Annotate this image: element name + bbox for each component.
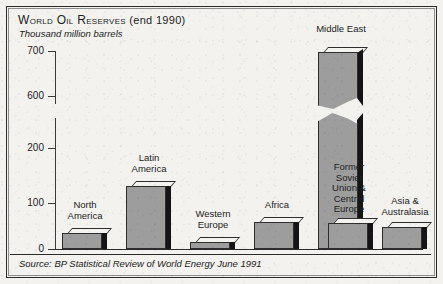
figure-panel: World Oil Reserves (end 1990) Thousand m… (0, 0, 443, 284)
figure-content: World Oil Reserves (end 1990) Thousand m… (10, 10, 431, 272)
bar-label-former-soviet-union: Former Soviet Union & Central Europe (318, 162, 380, 215)
source-divider (10, 254, 431, 255)
bar-middle-east-upper (318, 47, 363, 109)
bar-asia-australasia (382, 222, 427, 249)
bar-label-north-america: North America (50, 200, 120, 221)
bar-label-latin-america: Latin America (114, 153, 184, 174)
bar-north-america (62, 228, 107, 249)
y-axis-label-600: 600 (10, 90, 44, 101)
bar-latin-america (126, 181, 171, 249)
bar-front-face (318, 52, 358, 109)
y-axis-label-200: 200 (10, 142, 44, 153)
bar-western-europe (190, 237, 235, 249)
y-axis-label-700: 700 (10, 45, 44, 56)
bar-label-middle-east: Middle East (301, 24, 381, 35)
bar-label-asia-australasia: Asia & Australasia (372, 196, 438, 217)
y-axis-spine-lower (55, 118, 56, 250)
plot-area: 700 600 200 100 0 North America (10, 10, 431, 272)
bar-former-soviet-union (328, 218, 373, 249)
y-axis-label-100: 100 (10, 197, 44, 208)
bar-front-face (62, 233, 102, 249)
y-tick-200 (48, 148, 55, 149)
bar-front-face (382, 227, 422, 249)
y-tick-0 (48, 249, 55, 250)
x-axis-baseline (55, 249, 423, 250)
y-tick-700 (48, 51, 55, 52)
bar-front-face (254, 222, 294, 249)
y-axis-label-0: 0 (10, 243, 44, 254)
bar-front-face (190, 242, 230, 249)
bar-label-africa: Africa (242, 200, 312, 211)
bar-label-western-europe: Western Europe (178, 209, 248, 230)
y-axis-spine-upper (55, 51, 56, 104)
bar-front-face (126, 186, 166, 249)
bar-africa (254, 217, 299, 249)
bar-front-face (328, 223, 368, 249)
y-tick-600 (48, 96, 55, 97)
source-note: Source: BP Statistical Review of World E… (19, 258, 262, 269)
